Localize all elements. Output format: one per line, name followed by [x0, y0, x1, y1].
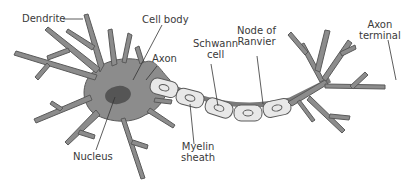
label-schwann-line2: cell	[193, 49, 238, 60]
label-node-line1: Node of	[237, 25, 276, 36]
label-node-of-ranvier: Node of Ranvier	[237, 25, 276, 47]
label-axon: Axon	[152, 53, 177, 64]
label-schwann-line1: Schwann	[193, 38, 238, 49]
neuron-diagram: Dendrite Cell body Axon Schwann cell Nod…	[0, 0, 406, 185]
axon-terminal-shape	[288, 30, 385, 133]
label-dendrite: Dendrite	[22, 13, 66, 24]
myelin-sheaths	[148, 76, 292, 121]
label-nucleus: Nucleus	[73, 151, 113, 162]
label-node-line2: Ranvier	[237, 36, 276, 47]
label-myelin-line2: sheath	[181, 152, 215, 163]
label-terminal-line1: Axon	[359, 19, 401, 30]
label-axon-terminal: Axon terminal	[359, 19, 401, 41]
label-cell-body: Cell body	[142, 14, 189, 25]
label-myelin-line1: Myelin	[181, 141, 215, 152]
label-terminal-line2: terminal	[359, 30, 401, 41]
label-schwann-cell: Schwann cell	[193, 38, 238, 60]
label-myelin-sheath: Myelin sheath	[181, 141, 215, 163]
